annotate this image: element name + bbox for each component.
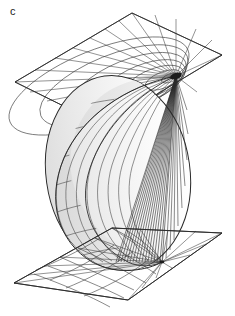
lower-plane-outline — [14, 228, 222, 300]
stereographic-projection-diagram — [0, 0, 235, 316]
lower-plane — [14, 228, 222, 307]
figure-root: c — [0, 0, 235, 316]
panel-label: c — [10, 5, 16, 18]
south-pole-point — [160, 261, 165, 264]
